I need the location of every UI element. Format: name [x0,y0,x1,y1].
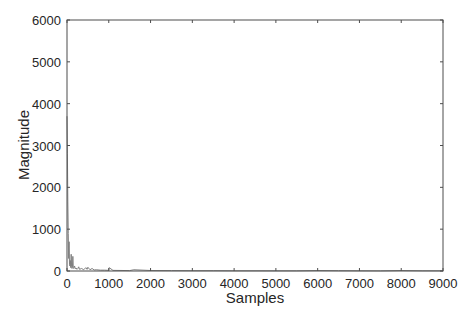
plot-background [67,20,443,271]
y-tick-label: 4000 [32,97,61,112]
x-tick-label: 8000 [387,276,416,291]
y-tick-label: 1000 [32,222,61,237]
y-axis-label: Magnitude [15,110,32,180]
x-tick-label: 3000 [178,276,207,291]
y-tick-label: 0 [54,264,61,279]
chart: 0100020003000400050006000700080009000 01… [0,0,470,320]
x-tick-label: 0 [63,276,70,291]
y-tick-label: 6000 [32,13,61,28]
y-tick-label: 2000 [32,180,61,195]
x-tick-label: 9000 [429,276,458,291]
y-tick-label: 5000 [32,55,61,70]
y-tick-label: 3000 [32,139,61,154]
x-axis-label: Samples [226,289,284,306]
x-tick-label: 2000 [136,276,165,291]
x-tick-label: 1000 [94,276,123,291]
x-tick-label: 6000 [303,276,332,291]
plot-area [67,20,443,271]
x-tick-label: 7000 [345,276,374,291]
